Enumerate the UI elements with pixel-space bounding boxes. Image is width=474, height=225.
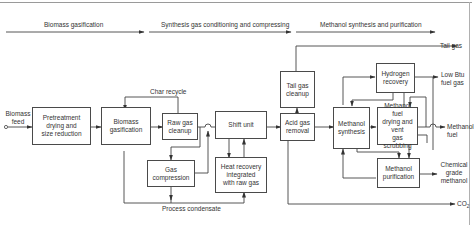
unit-acid-gas-removal: Acid gas removal bbox=[280, 113, 315, 141]
unit-methanol-purification: Methanol purification bbox=[377, 158, 420, 188]
stage-biomass-gasification: Biomass gasification bbox=[44, 21, 103, 28]
unit-pretreatment: Pretreatment drying and size reduction bbox=[32, 107, 91, 145]
unit-methanol-synthesis: Methanol synthesis bbox=[333, 107, 370, 149]
char-recycle-label: Char recycle bbox=[150, 88, 186, 96]
tail-gas-output: Tail gas bbox=[440, 42, 462, 50]
chemical-methanol-output: Chemical grade methanol bbox=[437, 161, 471, 185]
unit-raw-gas-cleanup: Raw gas cleanup bbox=[162, 113, 198, 140]
co2-subscript: 2 bbox=[467, 204, 470, 209]
co2-output: CO2 bbox=[457, 200, 469, 211]
unit-hydrogen-recovery: Hydrogen recovery bbox=[376, 63, 415, 93]
low-btu-output: Low Btu fuel gas bbox=[441, 71, 465, 87]
unit-gas-compression: Gas compression bbox=[147, 160, 195, 187]
stage-methanol-synthesis: Methanol synthesis and purification bbox=[320, 21, 422, 28]
process-condensate-label: Process condensate bbox=[162, 205, 221, 213]
unit-shift: Shift unit bbox=[215, 111, 267, 139]
unit-tail-gas-cleanup: Tail gas cleanup bbox=[280, 71, 315, 108]
biomass-feed-label: Biomass feed bbox=[5, 110, 31, 126]
unit-biomass-gasification: Biomass gasification bbox=[101, 107, 151, 145]
methanol-fuel-output: Methanol fuel bbox=[447, 123, 474, 139]
stage-synthesis-gas: Synthesis gas conditioning and compressi… bbox=[161, 21, 289, 28]
unit-heat-recovery: Heat recovery integrated with raw gas bbox=[215, 157, 267, 193]
unit-methanol-fuel-drying: Methanol fuel drying and vent gas scrubb… bbox=[377, 107, 418, 145]
co2-label: CO bbox=[457, 200, 467, 207]
